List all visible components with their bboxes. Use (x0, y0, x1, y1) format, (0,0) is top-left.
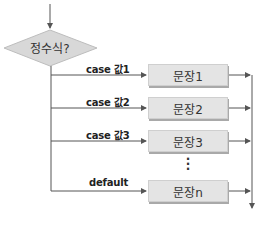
statement-label-3: 문장3 (173, 133, 203, 150)
statement-label-1: 문장1 (173, 67, 203, 84)
case-label-default: default (89, 177, 128, 188)
decision-label: 정수식? (18, 39, 82, 56)
statement-box-1: 문장1 (148, 64, 228, 86)
statement-box-n: 문장n (148, 180, 228, 202)
ellipsis-dots: ··· (183, 157, 193, 172)
statement-box-3: 문장3 (148, 130, 228, 152)
statement-label-2: 문장2 (173, 100, 203, 117)
case-label-2: case 값2 (86, 94, 129, 109)
statement-box-2: 문장2 (148, 97, 228, 119)
case-label-3: case 값3 (86, 127, 129, 142)
case-label-1: case 값1 (86, 61, 129, 76)
statement-label-n: 문장n (173, 183, 203, 200)
